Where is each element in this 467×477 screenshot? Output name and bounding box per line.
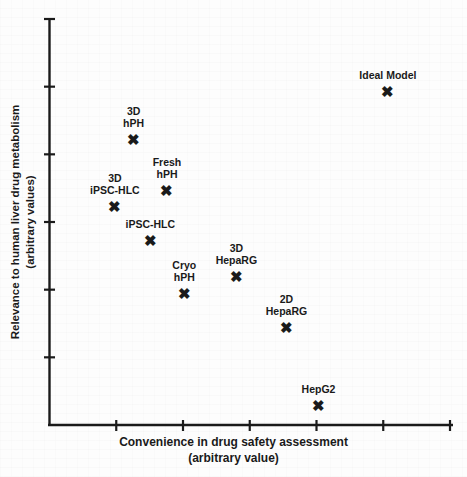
data-point-label: 2D HepaRG [266,293,307,317]
data-point-label: 3D hPH [123,105,144,129]
data-point-marker: ✖ [178,286,191,301]
data-point-marker: ✖ [230,269,243,284]
x-axis-title: Convenience in drug safety assessment (a… [0,434,467,466]
data-point-label: 3D iPSC-HLC [90,172,140,196]
data-point-label: 3D HepaRG [216,242,257,266]
data-point-label: Fresh hPH [153,156,182,180]
data-point-label: Cryo hPH [172,259,196,283]
data-point-label: iPSC-HLC [125,218,175,230]
data-point-label: HepG2 [302,383,336,395]
data-point-marker: ✖ [160,182,173,197]
scatter-chart: ✖Ideal Model✖3D hPH✖Fresh hPH✖3D iPSC-HL… [0,0,467,477]
data-point-marker: ✖ [127,131,140,146]
data-point-marker: ✖ [144,232,157,247]
data-point-marker: ✖ [381,84,394,99]
data-point-marker: ✖ [280,319,293,334]
data-point-marker: ✖ [108,199,121,214]
data-point-label: Ideal Model [359,69,416,81]
data-point-marker: ✖ [312,397,325,412]
y-axis-title: Relevance to human liver drug metabolism… [8,19,38,425]
